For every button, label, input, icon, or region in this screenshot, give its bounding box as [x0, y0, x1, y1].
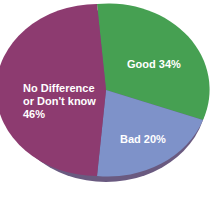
- label-nd-line3: 46%: [23, 108, 96, 121]
- label-no-difference: No Difference or Don't know 46%: [23, 82, 96, 121]
- label-good: Good 34%: [127, 58, 181, 71]
- label-nd-line2: or Don't know: [23, 95, 96, 108]
- label-nd-line1: No Difference: [23, 82, 96, 95]
- label-bad: Bad 20%: [120, 133, 166, 146]
